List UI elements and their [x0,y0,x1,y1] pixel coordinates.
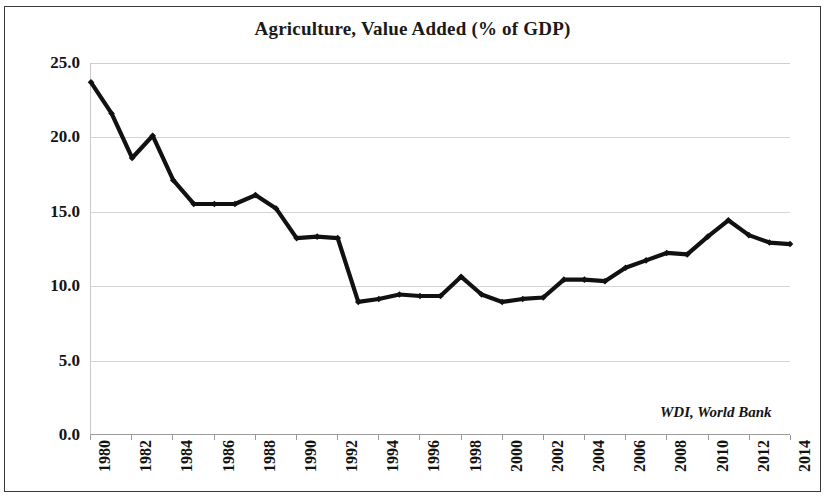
x-tickmark [790,435,791,440]
data-point-marker [211,201,218,208]
y-axis: 0.05.010.015.020.025.0 [0,63,80,435]
x-tick-label: 1994 [384,440,402,472]
x-axis: 1980198219841986198819901992199419961998… [90,440,790,496]
x-tickmark [172,435,173,440]
y-tick-label: 5.0 [2,351,80,371]
x-tick-label: 2008 [672,440,690,472]
x-tickmark [214,435,215,440]
x-tick-label: 1984 [178,440,196,472]
x-tickmark [502,435,503,440]
x-tick-label: 1988 [261,440,279,472]
y-tick-label: 15.0 [2,202,80,222]
plot-area [90,63,790,435]
x-tickmark [666,435,667,440]
x-tick-label: 1982 [137,440,155,472]
x-tickmark [543,435,544,440]
x-tick-label: 2004 [590,440,608,472]
x-tickmark [255,435,256,440]
x-tick-label: 1998 [467,440,485,472]
x-tick-label: 1992 [343,440,361,472]
x-tickmark [296,435,297,440]
source-annotation: WDI, World Bank [660,404,772,421]
x-tick-label: 2000 [508,440,526,472]
y-tick-label: 10.0 [2,276,80,296]
series-line [91,82,790,302]
data-point-marker [314,233,321,240]
x-tick-label: 2010 [714,440,732,472]
x-tick-label: 2006 [631,440,649,472]
x-tick-label: 2002 [549,440,567,472]
x-tickmark [625,435,626,440]
data-point-marker [787,241,794,248]
x-tickmark [90,435,91,440]
x-tickmark [337,435,338,440]
x-tickmark [131,435,132,440]
chart-figure: Agriculture, Value Added (% of GDP) 0.05… [0,0,825,497]
x-tickmark [708,435,709,440]
line-series [91,63,790,434]
x-tickmark [749,435,750,440]
x-tickmark [419,435,420,440]
x-tick-label: 1980 [96,440,114,472]
y-tick-label: 20.0 [2,127,80,147]
chart-title: Agriculture, Value Added (% of GDP) [0,18,825,40]
x-tickmark [584,435,585,440]
data-point-marker [417,293,424,300]
x-tickmark [378,435,379,440]
x-tickmark [461,435,462,440]
x-tick-label: 2012 [755,440,773,472]
data-point-marker [581,276,588,283]
x-tick-label: 1990 [302,440,320,472]
x-tick-label: 1986 [220,440,238,472]
y-tick-label: 25.0 [2,53,80,73]
y-tick-label: 0.0 [2,425,80,445]
x-tick-label: 2014 [796,440,814,472]
x-tick-label: 1996 [425,440,443,472]
